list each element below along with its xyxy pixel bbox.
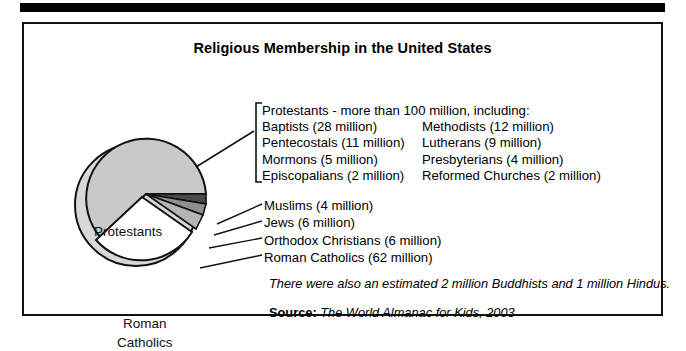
denomination-left: Episcopalians (2 million)	[262, 168, 422, 184]
pie-chart-svg	[32, 96, 242, 286]
pie-label-roman-catholics: Roman Catholics	[117, 314, 173, 351]
table-row: Baptists (28 million) Methodists (12 mil…	[262, 119, 682, 135]
denomination-right: Presbyterians (4 million)	[422, 152, 563, 168]
callout-orthodox-christians: Orthodox Christians (6 million)	[264, 232, 441, 249]
pie-label-roman-catholics-line2: Catholics	[117, 333, 173, 351]
denomination-left: Pentecostals (11 million)	[262, 135, 422, 151]
top-black-bar	[20, 3, 665, 12]
denomination-left: Baptists (28 million)	[262, 119, 422, 135]
protestant-breakdown: Protestants - more than 100 million, inc…	[262, 103, 682, 185]
callout-roman-catholics: Roman Catholics (62 million)	[264, 249, 441, 266]
source-text: The World Almanac for Kids, 2003	[320, 305, 514, 320]
source-line: Source: The World Almanac for Kids, 2003	[269, 305, 515, 320]
footnote-text: There were also an estimated 2 million B…	[269, 276, 670, 291]
pie-chart: Protestants Roman Catholics	[32, 96, 242, 286]
callout-labels: Muslims (4 million) Jews (6 million) Ort…	[264, 197, 441, 267]
callout-jews: Jews (6 million)	[264, 214, 441, 231]
callout-muslims: Muslims (4 million)	[264, 197, 441, 214]
table-row: Episcopalians (2 million) Reformed Churc…	[262, 168, 682, 184]
denomination-right: Methodists (12 million)	[422, 119, 554, 135]
protestant-heading: Protestants - more than 100 million, inc…	[262, 103, 682, 118]
denomination-left: Mormons (5 million)	[262, 152, 422, 168]
pie-label-roman-catholics-line1: Roman	[117, 314, 173, 333]
denomination-right: Lutherans (9 million)	[422, 135, 541, 151]
pie-label-protestants: Protestants	[94, 224, 162, 239]
source-label: Source:	[269, 305, 317, 320]
denomination-right: Reformed Churches (2 million)	[422, 168, 601, 184]
table-row: Mormons (5 million) Presbyterians (4 mil…	[262, 152, 682, 168]
table-row: Pentecostals (11 million) Lutherans (9 m…	[262, 135, 682, 151]
chart-frame: Religious Membership in the United State…	[22, 22, 663, 316]
page-title: Religious Membership in the United State…	[24, 40, 661, 56]
